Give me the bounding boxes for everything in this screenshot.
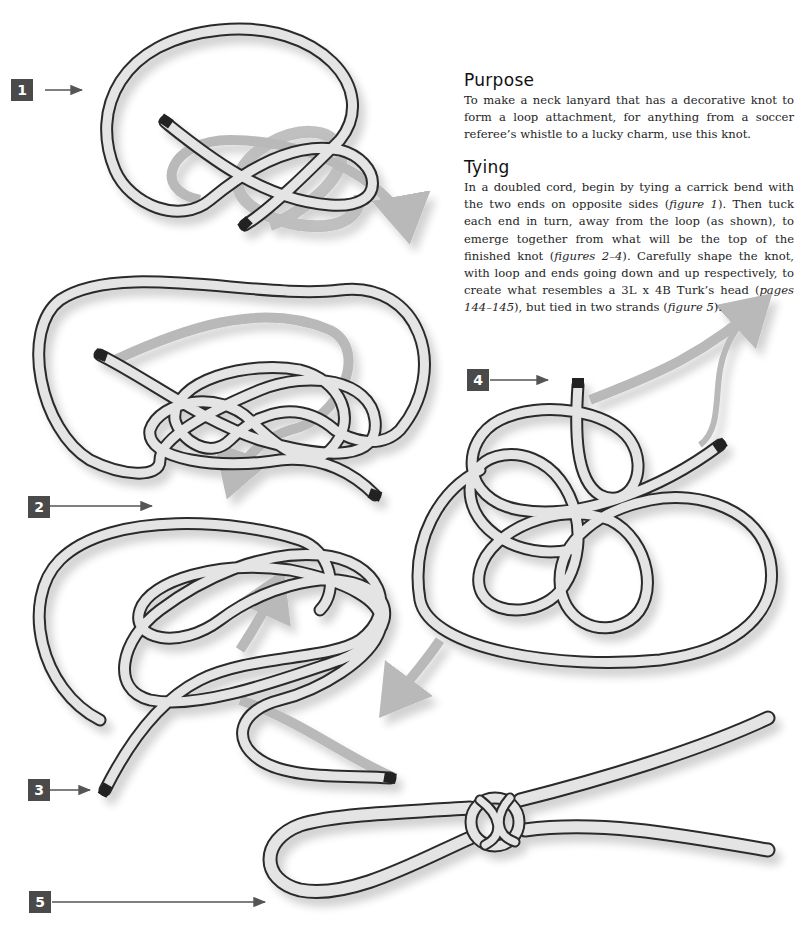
purpose-section: Purpose To make a neck lanyard that has …	[464, 70, 794, 144]
tying-text-segment: ), but tied in two strands (	[514, 300, 668, 314]
tying-text-segment: ).	[714, 300, 722, 314]
purpose-text: To make a neck lanyard that has a decora…	[464, 92, 794, 144]
purpose-heading: Purpose	[464, 70, 794, 90]
figure-5-label: 5	[29, 891, 51, 913]
figure-reference: figures 2–4	[554, 249, 622, 263]
tying-heading: Tying	[464, 157, 794, 177]
figure-1-illustration	[107, 29, 408, 235]
figure-1-label: 1	[11, 79, 33, 101]
figure-4-illustration	[385, 300, 772, 710]
figure-4-label: 4	[467, 369, 489, 391]
tying-section: Tying In a doubled cord, begin by tying …	[464, 157, 794, 317]
figure-3-label: 3	[28, 779, 50, 801]
tying-text: In a doubled cord, begin by tying a carr…	[464, 179, 794, 317]
figure-5-illustration	[270, 718, 768, 892]
figure-reference: figure 5	[668, 300, 714, 314]
figure-reference: figure 1	[669, 197, 718, 211]
figure-2-illustration	[39, 282, 425, 502]
figure-2-label: 2	[28, 496, 50, 518]
figure-3-illustration	[39, 524, 397, 798]
